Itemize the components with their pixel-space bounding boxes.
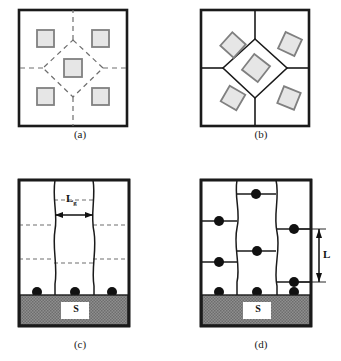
substrate-label-d: S xyxy=(250,303,266,314)
dot xyxy=(214,216,224,226)
substrate-label-c: S xyxy=(68,303,84,314)
grain-size-label-c-sub: g xyxy=(73,199,77,207)
dot xyxy=(214,257,224,267)
panel-d: L S xyxy=(199,178,335,334)
arrowhead-top xyxy=(316,229,322,238)
particle xyxy=(64,59,82,77)
grain-size-label-c: Lg xyxy=(66,192,77,207)
caption-panel-c: (c) xyxy=(0,338,160,350)
particle xyxy=(92,30,109,47)
panel-b xyxy=(199,8,311,128)
panel-a-svg xyxy=(17,8,129,128)
particle xyxy=(37,88,54,105)
caption-panel-a: (a) xyxy=(0,128,160,140)
particle xyxy=(37,30,54,47)
panel-a xyxy=(17,8,129,128)
arrowhead-bottom xyxy=(316,273,322,282)
panel-c: Lg S xyxy=(17,178,137,334)
particle xyxy=(92,88,109,105)
caption-panel-d: (d) xyxy=(181,338,341,350)
panel-b-svg xyxy=(199,8,311,128)
caption-panel-b: (b) xyxy=(181,128,341,140)
grain-size-label-d: L xyxy=(323,248,330,260)
figure-microstructure-panels: (a) (b) xyxy=(0,0,341,361)
panel-d-svg xyxy=(199,178,335,334)
dot xyxy=(252,246,262,256)
dot xyxy=(251,189,261,199)
